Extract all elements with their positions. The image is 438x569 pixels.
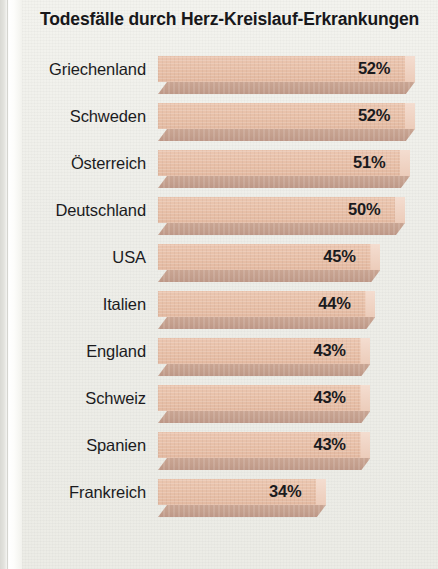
bar-value-label: 50% <box>348 200 380 219</box>
bar-category-label: Österreich <box>0 154 146 173</box>
bar-end-cap <box>405 56 415 82</box>
bar-3d-shadow <box>158 223 405 235</box>
bar-end-cap <box>360 432 370 458</box>
bar-category-label: Spanien <box>0 436 146 455</box>
chart-plot-area: Griechenland52%Schweden52%Österreich51%D… <box>0 56 438 569</box>
bar-end-cap <box>405 103 415 129</box>
bar-end-cap <box>400 150 410 176</box>
bar-value-label: 43% <box>313 435 345 454</box>
bar-end-cap <box>370 244 380 270</box>
bar-category-label: Deutschland <box>0 201 146 220</box>
bar-row: Frankreich34% <box>0 479 438 519</box>
bar-row: Italien44% <box>0 291 438 331</box>
bar-3d-shadow <box>158 270 380 282</box>
bar-row: Schweiz43% <box>0 385 438 425</box>
bar-category-label: Griechenland <box>0 60 146 79</box>
bar-3d-shadow <box>158 129 415 141</box>
bar-value-label: 43% <box>313 341 345 360</box>
bar-3d-shadow <box>158 458 370 470</box>
bar-category-label: Italien <box>0 295 146 314</box>
bar-category-label: USA <box>0 248 146 267</box>
bar-category-label: Schweden <box>0 107 146 126</box>
bar-value-label: 45% <box>323 247 355 266</box>
bar-value-label: 52% <box>358 59 390 78</box>
bar-3d-shadow <box>158 364 370 376</box>
bar-row: Schweden52% <box>0 103 438 143</box>
bar-end-cap <box>365 291 375 317</box>
bar-category-label: Frankreich <box>0 483 146 502</box>
bar-row: Österreich51% <box>0 150 438 190</box>
bar-value-label: 44% <box>318 294 350 313</box>
bar-value-label: 34% <box>269 482 301 501</box>
bar-value-label: 52% <box>358 106 390 125</box>
bar-category-label: Schweiz <box>0 389 146 408</box>
bar-row: Spanien43% <box>0 432 438 472</box>
bar-end-cap <box>360 385 370 411</box>
bar-category-label: England <box>0 342 146 361</box>
bar-row: USA45% <box>0 244 438 284</box>
bar-value-label: 51% <box>353 153 385 172</box>
bar-chart-figure: Todesfälle durch Herz-Kreislauf-Erkranku… <box>0 0 438 569</box>
bar-end-cap <box>316 479 326 505</box>
bar-3d-shadow <box>158 82 415 94</box>
bar-3d-shadow <box>158 176 410 188</box>
bar-3d-shadow <box>158 411 370 423</box>
bar-3d-shadow <box>158 505 326 517</box>
bar-end-cap <box>360 338 370 364</box>
bar-row: England43% <box>0 338 438 378</box>
bar-value-label: 43% <box>313 388 345 407</box>
chart-title: Todesfälle durch Herz-Kreislauf-Erkranku… <box>40 9 428 30</box>
bar-end-cap <box>395 197 405 223</box>
bar-3d-shadow <box>158 317 375 329</box>
bar-row: Deutschland50% <box>0 197 438 237</box>
bar-row: Griechenland52% <box>0 56 438 96</box>
